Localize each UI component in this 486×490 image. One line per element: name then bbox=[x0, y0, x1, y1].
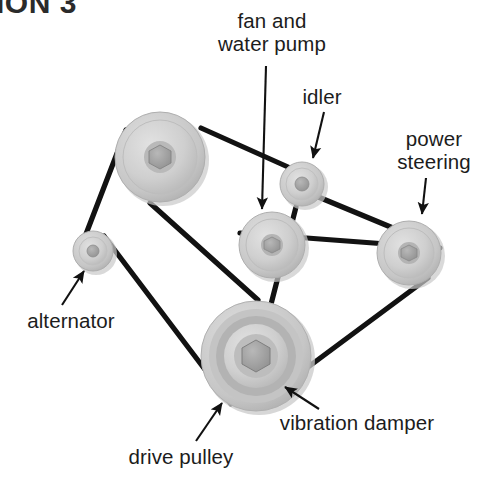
alternator-pulley bbox=[73, 231, 117, 275]
label-power-steering-line2: steering bbox=[397, 151, 471, 174]
power-steering-pulley bbox=[377, 221, 445, 289]
label-fan-and-water-pump-line2: water pump bbox=[218, 33, 326, 56]
belt-fanpump-to-idler bbox=[201, 128, 288, 167]
label-idler: idler bbox=[302, 86, 341, 109]
label-fan-and-water-pump: fan and water pump bbox=[218, 10, 326, 56]
label-vibration-damper-line1: vibration damper bbox=[280, 412, 434, 435]
arrow-power-steering bbox=[422, 178, 426, 214]
hex-bolt bbox=[401, 245, 417, 261]
arrow-alternator bbox=[62, 271, 84, 305]
hex-bolt bbox=[264, 237, 280, 253]
label-alternator-line1: alternator bbox=[27, 310, 115, 333]
label-fan-and-water-pump-line1: fan and bbox=[218, 10, 326, 33]
arrow-drive-pulley bbox=[196, 403, 222, 441]
label-power-steering-line1: power bbox=[397, 128, 471, 151]
arrow-fan-water-pump bbox=[262, 66, 266, 209]
label-drive-pulley: drive pulley bbox=[129, 446, 234, 469]
label-drive-pulley-line1: drive pulley bbox=[129, 446, 234, 469]
water-pump-pulley bbox=[239, 212, 309, 282]
arrow-idler bbox=[313, 112, 324, 158]
label-vibration-damper: vibration damper bbox=[280, 412, 434, 435]
drive-pulley-damper bbox=[201, 301, 315, 415]
label-power-steering: power steering bbox=[397, 128, 471, 174]
fan-water-pump-pulley bbox=[115, 112, 209, 206]
idler-pulley bbox=[280, 162, 328, 210]
diagram-canvas: ION 3 bbox=[0, 0, 486, 490]
label-idler-line1: idler bbox=[302, 86, 341, 109]
label-alternator: alternator bbox=[27, 310, 115, 333]
belt-idler-to-powersteering bbox=[316, 196, 393, 228]
